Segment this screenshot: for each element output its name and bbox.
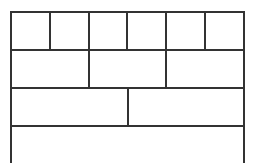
- row-sixths: [10, 11, 245, 49]
- cell-sixth-5: [165, 13, 204, 49]
- cell-sixth-6: [204, 13, 245, 49]
- fraction-wall: [10, 11, 245, 163]
- cell-half-2: [127, 89, 246, 125]
- cell-sixth-2: [49, 13, 88, 49]
- cell-whole: [10, 127, 245, 163]
- cell-third-2: [88, 51, 166, 87]
- cell-sixth-3: [88, 13, 127, 49]
- cell-third-3: [165, 51, 245, 87]
- cell-third-1: [10, 51, 88, 87]
- cell-sixth-1: [10, 13, 49, 49]
- cell-sixth-4: [126, 13, 165, 49]
- row-whole: [10, 125, 245, 163]
- row-halves: [10, 87, 245, 125]
- cell-half-1: [10, 89, 127, 125]
- row-thirds: [10, 49, 245, 87]
